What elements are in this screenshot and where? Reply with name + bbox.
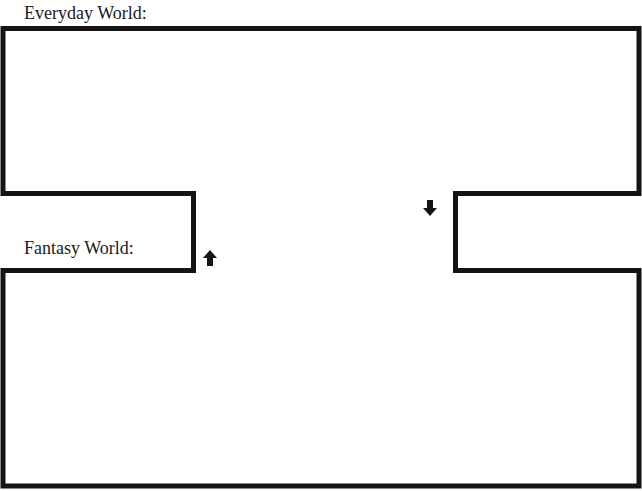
everyday-world-writing-area[interactable] <box>6 31 636 191</box>
fantasy-world-label: Fantasy World: <box>24 238 134 258</box>
transition-channel <box>200 196 450 272</box>
arrow-down-icon <box>423 200 437 220</box>
arrow-up-icon <box>203 250 217 270</box>
fantasy-world-writing-area[interactable] <box>6 276 636 482</box>
